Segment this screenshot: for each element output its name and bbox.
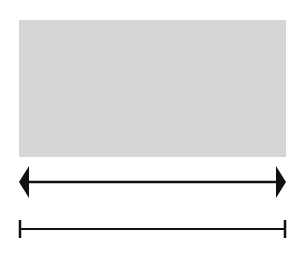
double-arrow-icon <box>19 166 286 198</box>
line-segment-icon <box>20 220 285 238</box>
diagram-lines <box>0 0 304 256</box>
